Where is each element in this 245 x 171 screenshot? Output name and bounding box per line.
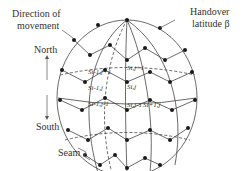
direction-label: Direction of [12, 8, 61, 19]
sat-label-s-im1-j: Si-1,j [88, 83, 103, 94]
sat-label-s-ip1-j: Si+1,j [143, 100, 160, 111]
seam-label: Seam [58, 147, 80, 158]
sat-label-s-i-jp1: Si,j+1 [127, 63, 144, 74]
sat-label-s-im1-jm1: Si-1,j-1 [88, 99, 109, 110]
handover-label: Handover [190, 6, 229, 17]
south-label: South [36, 121, 59, 132]
sat-label-s-ij: Si,j [127, 82, 136, 93]
sat-label-s-i-jm1: Si,j-1 [127, 100, 142, 111]
sat-label-s-im1-jp1: Si-1,j+1 [88, 67, 111, 78]
movement-label: movement [17, 20, 59, 31]
latitude-label: latitude β [192, 18, 230, 29]
north-label: North [34, 44, 57, 55]
